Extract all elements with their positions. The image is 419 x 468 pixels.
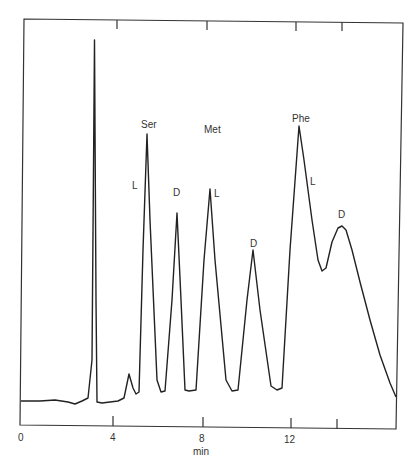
x-tick-4: 4	[110, 432, 116, 443]
x-tick-0: 0	[18, 432, 24, 443]
ser-label: Ser	[141, 119, 157, 130]
x-tick-8: 8	[199, 433, 205, 444]
phe-d-label: D	[338, 209, 345, 220]
met-d-label: D	[250, 238, 257, 249]
chromatogram-trace	[21, 40, 396, 404]
phe-label: Phe	[292, 113, 310, 124]
met-label: Met	[204, 124, 221, 135]
plot-frame	[20, 19, 403, 429]
x-tick-12: 12	[284, 434, 296, 445]
met-l-label: L	[214, 188, 220, 199]
chromatogram-chart: Ser L D Met L D Phe L D 0 4 8 12 min	[0, 0, 419, 468]
ser-l-label: L	[132, 180, 138, 191]
ser-d-label: D	[173, 187, 180, 198]
phe-l-label: L	[310, 176, 316, 187]
x-axis-label: min	[193, 446, 209, 457]
